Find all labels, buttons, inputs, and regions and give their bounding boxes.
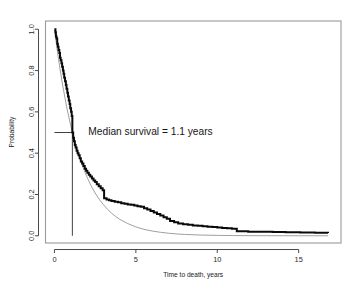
y-tick-label: 0.6 — [27, 107, 36, 117]
y-tick-label: 0.2 — [27, 189, 36, 199]
y-tick-label: 0.8 — [27, 65, 36, 75]
y-tick-label: 0.0 — [27, 231, 36, 241]
x-tick-label: 5 — [134, 255, 138, 264]
x-axis-ticks: 051015 — [52, 250, 302, 265]
x-tick-label: 15 — [295, 255, 303, 264]
x-tick-label: 0 — [52, 255, 56, 264]
survival-curve-figure: 051015 0.00.20.40.60.81.0 Median surviva… — [0, 0, 355, 296]
axis-titles: Time to death, yearsProbability — [8, 116, 224, 279]
y-tick-label: 1.0 — [27, 24, 36, 34]
y-axis-ticks: 0.00.20.40.60.81.0 — [27, 24, 39, 241]
axis-lines — [39, 29, 299, 249]
chart-annotations: Median survival = 1.1 years — [88, 126, 212, 137]
y-tick-label: 0.4 — [27, 148, 36, 158]
median-reference-lines — [54, 133, 72, 236]
y-axis-title: Probability — [8, 116, 16, 147]
x-axis-title: Time to death, years — [163, 271, 224, 279]
chart-canvas: 051015 0.00.20.40.60.81.0 Median surviva… — [0, 0, 355, 296]
x-tick-label: 10 — [213, 255, 221, 264]
median-survival-annotation: Median survival = 1.1 years — [88, 126, 212, 137]
